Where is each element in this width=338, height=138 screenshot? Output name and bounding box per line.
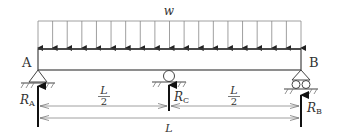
roller-circle-icon	[302, 81, 310, 89]
roller-circle-icon	[292, 81, 300, 89]
svg-text:2: 2	[231, 96, 237, 107]
svg-text:2: 2	[101, 96, 107, 107]
roller-circle-icon	[164, 71, 175, 82]
ground-hatch-icon	[285, 89, 317, 94]
dimension-label-left-half: L 2	[98, 84, 110, 107]
beam	[38, 49, 301, 70]
reaction-label-b: RB	[306, 101, 322, 116]
reaction-label-c: RC	[173, 90, 189, 105]
load-arrows	[38, 21, 301, 48]
beam-diagram: w A B	[0, 0, 338, 138]
load-label: w	[164, 4, 175, 18]
reaction-label-a: RA	[19, 93, 35, 108]
pin-triangle-icon	[292, 70, 310, 80]
end-label-b: B	[309, 55, 319, 70]
support-a-pin	[21, 70, 55, 88]
support-c-roller	[152, 71, 186, 88]
pin-triangle-icon	[29, 70, 47, 82]
distributed-load: w	[38, 4, 301, 48]
dimension-label-total: L	[164, 122, 172, 135]
support-b-roller	[284, 70, 318, 94]
dimension-label-right-half: L 2	[228, 84, 240, 107]
end-label-a: A	[21, 55, 32, 70]
